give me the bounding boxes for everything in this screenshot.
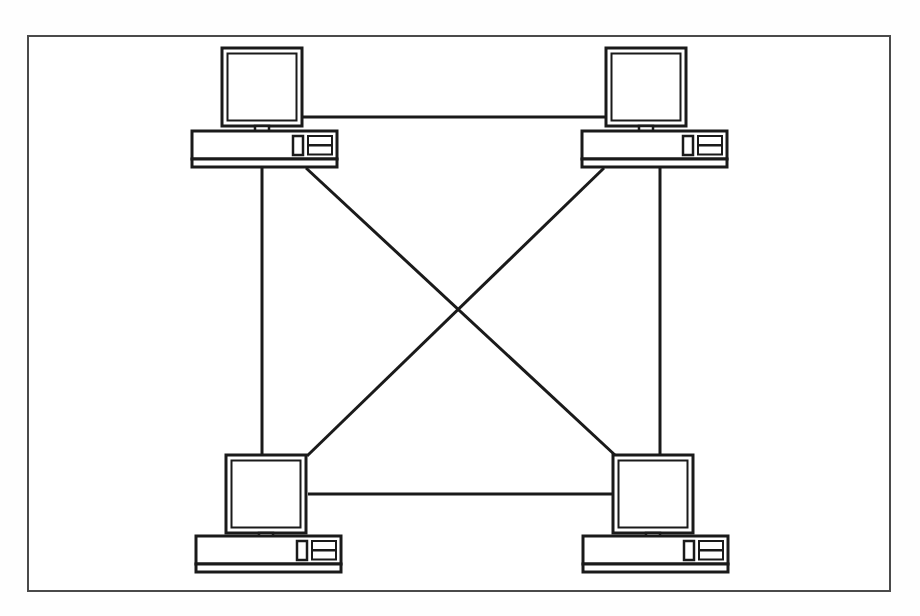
tower-icon	[582, 131, 727, 167]
tower-icon	[196, 536, 341, 572]
network-diagram-canvas	[0, 0, 920, 616]
monitor-icon	[613, 455, 693, 545]
monitor-icon	[606, 48, 686, 138]
network-diagram: Four-node peer-to-peer computer network …	[0, 0, 920, 616]
diagram-border	[28, 36, 890, 591]
monitor-icon	[226, 455, 306, 545]
tower-icon	[192, 131, 337, 167]
tower-icon	[583, 536, 728, 572]
monitor-icon	[222, 48, 302, 138]
